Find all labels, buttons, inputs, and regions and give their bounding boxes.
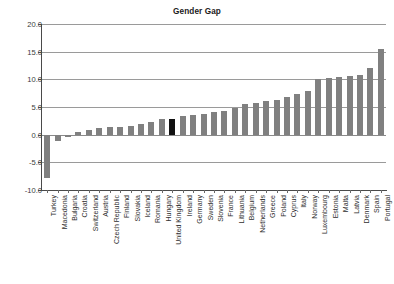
x-tick-label: Slovenia [217,195,224,222]
y-tick-label: 0.0 [2,130,42,139]
bar [294,94,300,135]
x-tick-label: Germany [196,195,203,224]
x-tick-label: Sweden [207,195,214,220]
x-tick-mark [110,190,111,193]
x-tick-label: Czech Republic [113,195,120,244]
x-tick-label: Cyprus [290,195,297,217]
bar [378,49,384,135]
x-tick-label: Luxembourg [321,195,328,234]
bar [55,135,61,142]
bar [315,79,321,134]
bar [75,132,81,135]
x-tick-label: Austria [102,195,109,217]
x-tick-label: Slovakia [134,195,141,221]
bar [169,119,175,135]
x-tick-label: Poland [280,195,287,217]
x-tick-label: Macedonia [61,195,68,229]
x-tick-mark [224,190,225,193]
bar [242,104,248,135]
x-tick-label: Lithuania [238,195,245,223]
x-tick-label: Portugal [384,195,391,221]
x-tick-label: Bulgaria [71,195,78,221]
x-tick-mark [204,190,205,193]
bar [305,91,311,135]
bar [221,111,227,135]
x-tick-mark [193,190,194,193]
bar [117,127,123,135]
bar [326,78,332,135]
x-tick-mark [47,190,48,193]
x-tick-mark [308,190,309,193]
bar [128,126,134,135]
x-tick-label: Turkey [50,195,57,216]
bar [65,135,71,138]
x-tick-label: Iceland [144,195,151,218]
x-tick-mark [339,190,340,193]
x-tick-label: Malta [342,195,349,212]
x-tick-mark [68,190,69,193]
gender-gap-chart: Gender Gap TurkeyMacedoniaBulgariaCroati… [0,0,394,284]
x-tick-mark [78,190,79,193]
bar [336,77,342,135]
bar [44,135,50,179]
bar [347,76,353,135]
x-axis-labels: TurkeyMacedoniaBulgariaCroatiaSwitzerlan… [42,195,386,283]
bar [211,112,217,135]
bar [253,103,259,135]
x-tick-mark [266,190,267,193]
x-tick-label: Italy [300,195,307,208]
x-tick-label: France [227,195,234,217]
y-tick-mark [38,162,42,163]
x-tick-mark [287,190,288,193]
x-tick-mark [381,190,382,193]
x-tick-label: Denmark [363,195,370,223]
bar [263,101,269,134]
bar [159,119,165,134]
bar [201,114,207,134]
x-tick-mark [172,190,173,193]
x-tick-label: Hungary [165,195,172,221]
x-tick-mark [141,190,142,193]
x-tick-mark [131,190,132,193]
bar [357,75,363,135]
bar [138,124,144,135]
x-tick-mark [297,190,298,193]
bar [274,100,280,135]
x-tick-label: Greece [269,195,276,218]
x-tick-label: Ireland [186,195,193,216]
x-tick-label: Belgium [248,195,255,220]
y-tick-mark [38,107,42,108]
y-tick-label: 20.0 [2,20,42,29]
y-tick-label: 10.0 [2,75,42,84]
x-tick-mark [58,190,59,193]
x-tick-mark [318,190,319,193]
x-tick-label: Spain [373,195,380,213]
x-tick-mark [183,190,184,193]
x-tick-mark [256,190,257,193]
x-tick-mark [120,190,121,193]
x-tick-label: Norway [311,195,318,219]
y-tick-mark [38,135,42,136]
x-tick-marks [42,190,386,194]
x-tick-mark [89,190,90,193]
x-tick-label: Netherlands [259,195,266,233]
bar [148,122,154,135]
bar [367,68,373,134]
x-tick-mark [245,190,246,193]
x-tick-label: Croatia [81,195,88,218]
y-tick-label: 5.0 [2,103,42,112]
y-tick-mark [38,52,42,53]
chart-title: Gender Gap [0,7,394,16]
x-tick-mark [162,190,163,193]
x-tick-mark [99,190,100,193]
bar [190,115,196,135]
x-tick-label: Latvia [353,195,360,214]
x-tick-mark [370,190,371,193]
y-tick-mark [38,79,42,80]
x-tick-label: Estonia [332,195,339,218]
x-tick-mark [329,190,330,193]
x-tick-label: Finland [123,195,130,218]
bar [96,128,102,135]
bar [180,116,186,135]
y-tick-mark [38,190,42,191]
